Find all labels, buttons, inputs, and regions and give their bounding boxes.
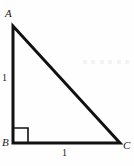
vertex-label-b: B [2,137,9,148]
vertex-label-a: A [5,8,12,19]
side-length-label-bc: 1 [62,148,67,158]
geometry-figure: A B C 1 1 [0,0,134,166]
side-length-label-ab: 1 [2,73,7,83]
triangle-drawing [0,0,134,166]
vertex-label-c: C [123,140,130,151]
triangle-outline [13,26,120,143]
right-angle-marker-icon [13,128,28,143]
